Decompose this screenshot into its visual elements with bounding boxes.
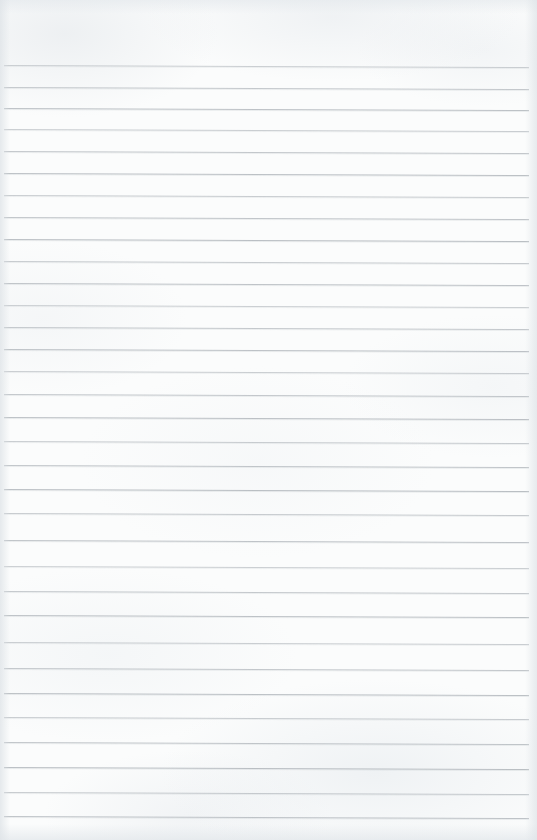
- scanned-page: [0, 0, 537, 840]
- page-writing-area[interactable]: [0, 0, 537, 840]
